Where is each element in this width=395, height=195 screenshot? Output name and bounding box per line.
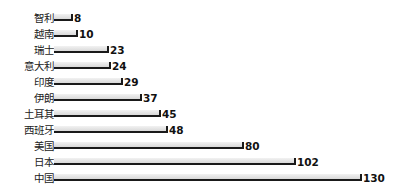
bar [54, 94, 142, 101]
value-label: 102 [297, 155, 319, 169]
category-label: 智利 [34, 11, 54, 25]
category-label: 日本 [34, 155, 54, 169]
category-label: 越南 [34, 27, 54, 41]
category-label: 伊朗 [34, 91, 54, 105]
bar-row: 中国130 [0, 171, 395, 185]
bar-row: 越南10 [0, 27, 395, 41]
bar [54, 62, 111, 69]
value-label: 10 [79, 27, 94, 41]
bar [54, 110, 161, 117]
category-label: 瑞士 [34, 43, 54, 57]
category-label: 土耳其 [24, 107, 54, 121]
bar-row: 意大利24 [0, 59, 395, 73]
bar [54, 46, 109, 53]
value-label: 8 [74, 11, 81, 25]
bar-row: 印度29 [0, 75, 395, 89]
value-label: 45 [162, 107, 177, 121]
bar-row: 美国80 [0, 139, 395, 153]
value-label: 130 [363, 171, 385, 185]
category-label: 意大利 [24, 59, 54, 73]
bar-row: 日本102 [0, 155, 395, 169]
value-label: 48 [169, 123, 184, 137]
value-label: 24 [112, 59, 127, 73]
category-label: 西班牙 [24, 123, 54, 137]
bar [54, 78, 123, 85]
bar-row: 伊朗37 [0, 91, 395, 105]
value-label: 29 [124, 75, 139, 89]
value-label: 23 [110, 43, 125, 57]
bar [54, 174, 362, 181]
value-label: 37 [143, 91, 158, 105]
bar-row: 西班牙48 [0, 123, 395, 137]
category-label: 中国 [34, 171, 54, 185]
bar [54, 158, 296, 165]
bar-row: 土耳其45 [0, 107, 395, 121]
bar [54, 30, 78, 37]
bar-row: 智利8 [0, 11, 395, 25]
value-label: 80 [245, 139, 260, 153]
category-label: 印度 [34, 75, 54, 89]
bar [54, 14, 73, 21]
bar [54, 142, 244, 149]
bar-row: 瑞士23 [0, 43, 395, 57]
bar [54, 126, 168, 133]
horizontal-bar-chart: 智利8越南10瑞士23意大利24印度29伊朗37土耳其45西班牙48美国80日本… [0, 0, 395, 195]
category-label: 美国 [34, 139, 54, 153]
